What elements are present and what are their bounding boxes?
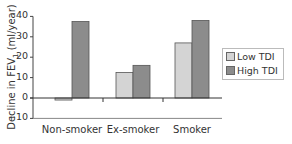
- bar-chart: Decline in FEV1 (ml/year) −10010203040 N…: [0, 0, 292, 144]
- y-tick-label: 10: [4, 71, 28, 82]
- bar-high-tdi-non-smoker: [72, 22, 89, 99]
- y-tick-label: 0: [4, 91, 28, 102]
- legend-label: Low TDI: [237, 51, 275, 62]
- legend-item-high-tdi: High TDI: [226, 65, 278, 76]
- x-category-label: Smoker: [157, 124, 227, 135]
- bar-low-tdi-ex-smoker: [116, 73, 133, 99]
- y-tick-label: 20: [4, 50, 28, 61]
- legend-swatch-low-tdi: [226, 52, 235, 61]
- legend-item-low-tdi: Low TDI: [226, 51, 275, 62]
- legend: Low TDI High TDI: [222, 48, 284, 80]
- bar-high-tdi-ex-smoker: [133, 65, 150, 98]
- legend-label: High TDI: [237, 65, 278, 76]
- y-tick-label: −10: [4, 111, 28, 122]
- legend-swatch-high-tdi: [226, 66, 235, 75]
- x-category-label: Non-smoker: [37, 124, 107, 135]
- y-tick-label: 30: [4, 30, 28, 41]
- bar-low-tdi-smoker: [175, 43, 192, 98]
- y-tick-label: 40: [4, 9, 28, 20]
- bar-high-tdi-smoker: [192, 20, 209, 98]
